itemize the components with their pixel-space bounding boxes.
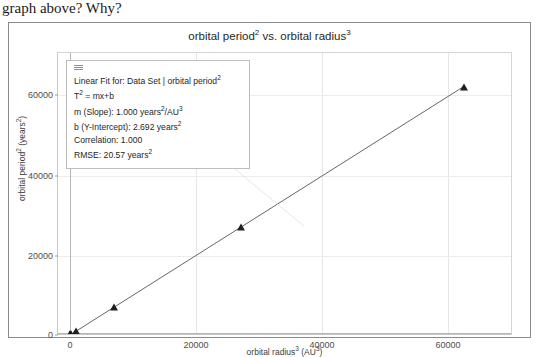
fit-slope-text: m (Slope): 1.000 years xyxy=(74,107,161,117)
document-header-text: graph above? Why? xyxy=(2,0,122,17)
drag-handle-icon[interactable] xyxy=(74,65,83,70)
y-tick-mark xyxy=(55,95,58,96)
y-axis-title-units: (years xyxy=(17,122,27,148)
fit-intercept-exponent: 2 xyxy=(178,120,182,127)
y-axis-title-text: orbital period xyxy=(17,152,27,201)
linear-fit-info-box[interactable]: Linear Fit for: Data Set | orbital perio… xyxy=(66,60,250,169)
y-tick-mark xyxy=(55,256,58,257)
data-point-marker xyxy=(237,224,245,231)
y-axis-title-exponent-1: 2 xyxy=(15,148,22,152)
y-tick-label-20000: 20000 xyxy=(28,251,53,261)
fit-line-title: Linear Fit for: Data Set | orbital perio… xyxy=(74,72,242,87)
fit-intercept-text: b (Y-Intercept): 2.692 years xyxy=(74,122,178,132)
y-axis-title: orbital period2 (years2) xyxy=(15,116,27,201)
chart-title-text: orbital period xyxy=(188,30,254,42)
fit-title-text: Linear Fit for: Data Set | orbital perio… xyxy=(74,76,217,86)
fit-slope-exponent-2: 3 xyxy=(179,105,183,112)
chart-title-middle: vs. orbital radius xyxy=(259,30,346,42)
y-axis-title-exponent-2: 2 xyxy=(15,119,22,123)
data-point-marker xyxy=(110,304,118,311)
fit-equation-rest: = mx+b xyxy=(83,91,114,101)
y-tick-mark xyxy=(55,335,58,336)
data-point-marker xyxy=(72,328,80,335)
fit-line-rmse: RMSE: 20.57 years2 xyxy=(74,146,242,161)
fit-title-exponent: 2 xyxy=(217,74,221,81)
chart-title: orbital period2 vs. orbital radius3 xyxy=(9,28,530,42)
figure-frame: orbital period2 vs. orbital radius3 xyxy=(8,22,531,338)
y-tick-label-60000: 60000 xyxy=(28,90,53,100)
fit-line-equation: T2 = mx+b xyxy=(74,87,242,102)
fit-line-intercept: b (Y-Intercept): 2.692 years2 xyxy=(74,118,242,133)
y-tick-label-0: 0 xyxy=(48,330,53,340)
fit-rmse-exponent: 2 xyxy=(149,148,153,155)
y-axis-title-close: ) xyxy=(17,116,27,119)
data-point-marker xyxy=(460,84,468,91)
x-axis-title: orbital radius3 (AU3) xyxy=(57,345,512,357)
fit-line-correlation: Correlation: 1.000 xyxy=(74,134,242,147)
y-tick-label-40000: 40000 xyxy=(28,171,53,181)
fit-slope-units: /AU xyxy=(165,107,179,117)
x-axis-title-close: ) xyxy=(320,347,323,357)
chart-title-exponent-2: 3 xyxy=(346,28,350,37)
x-axis-title-units: (AU xyxy=(299,347,316,357)
fit-rmse-text: RMSE: 20.57 years xyxy=(74,150,149,160)
fit-line-slope: m (Slope): 1.000 years2/AU3 xyxy=(74,103,242,118)
y-tick-mark xyxy=(55,176,58,177)
x-axis-title-text: orbital radius xyxy=(247,347,296,357)
